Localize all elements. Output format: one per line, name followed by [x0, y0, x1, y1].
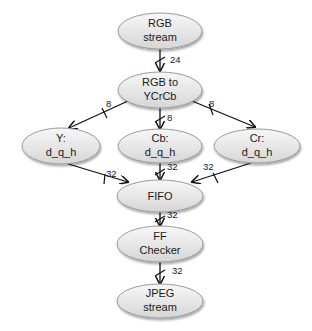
node-label-line1: FIFO — [147, 190, 172, 202]
edge-rgb-to-ycrcb-to-cb: 8 — [155, 108, 172, 129]
node-label-line1: Cb: — [151, 132, 168, 144]
node-jpeg-stream: JPEG stream — [117, 284, 203, 318]
edge-rgb-to-ycrcb-to-cr: 8 — [192, 98, 255, 127]
node-label-line2: stream — [143, 301, 177, 313]
node-label-line1: FF — [153, 230, 167, 242]
node-label-line2: stream — [143, 31, 177, 43]
node-cr-dqh: Cr: d_q_h — [214, 129, 300, 163]
node-rgb-to-ycrcb: RGB to YCrCb — [118, 72, 202, 108]
edge-label-bus-width: 32 — [106, 168, 117, 179]
flowchart-diagram: 24 8 8 8 32 32 — [0, 0, 312, 331]
bus-tick — [104, 174, 105, 184]
edge-label-bus-width: 8 — [209, 98, 214, 109]
node-label-line1: Cr: — [250, 132, 265, 144]
node-label-line1: RGB — [148, 17, 172, 29]
edge-label-bus-width: 8 — [106, 98, 111, 109]
node-label-line1: JPEG — [146, 287, 175, 299]
node-rgb-stream: RGB stream — [118, 13, 202, 49]
node-label-line2: d_q_h — [242, 146, 273, 158]
edge-label-bus-width: 32 — [172, 265, 183, 276]
edge-label-bus-width: 8 — [167, 112, 172, 123]
edge-cr-to-fifo: 32 — [192, 161, 251, 183]
node-label-line2: YCrCb — [143, 90, 176, 102]
edge-ff-checker-to-jpeg-stream: 32 — [155, 262, 183, 284]
node-label-line1: RGB to — [142, 76, 178, 88]
node-label-line1: Y: — [56, 132, 66, 144]
node-label-line2: d_q_h — [46, 146, 77, 158]
node-y-dqh: Y: d_q_h — [22, 128, 100, 164]
node-label-line2: Checker — [140, 244, 181, 256]
node-cb-dqh: Cb: d_q_h — [118, 129, 202, 163]
edge-label-bus-width: 24 — [170, 54, 181, 65]
edge-cb-to-fifo: 32 — [155, 161, 178, 180]
edge-label-bus-width: 32 — [203, 161, 214, 172]
edge-y-to-fifo: 32 — [65, 163, 128, 184]
node-fifo: FIFO — [117, 180, 203, 212]
edge-rgb-stream-to-rgb-to-ycrcb: 24 — [155, 49, 181, 71]
node-ff-checker: FF Checker — [117, 226, 203, 262]
node-label-line2: d_q_h — [145, 146, 176, 158]
edge-rgb-to-ycrcb-to-y: 8 — [69, 98, 128, 128]
